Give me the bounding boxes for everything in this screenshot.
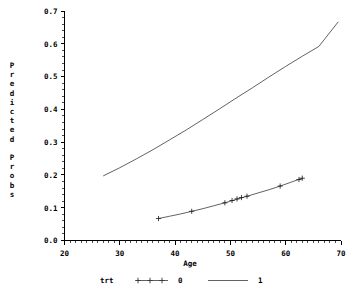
y-axis-title-char: P <box>10 153 15 162</box>
x-tick-label: 20 <box>60 249 70 258</box>
data-point-marker <box>296 177 301 182</box>
y-axis-title-char: P <box>10 61 15 70</box>
x-axis-ticks <box>65 241 342 246</box>
legend-symbol-plus-markers <box>135 278 168 284</box>
y-tick-label: 0.6 <box>44 40 58 49</box>
series-1 <box>103 22 338 176</box>
x-tick-label: 60 <box>281 249 291 258</box>
y-axis-title-char: e <box>10 125 15 134</box>
y-axis-title: PredictedProbs <box>10 61 15 199</box>
y-axis-title-char: i <box>10 98 15 107</box>
predicted-probability-chart: PredictedProbs 0.00.10.20.30.40.50.60.7 … <box>0 0 350 295</box>
legend-entry-label-0: 0 <box>178 276 183 285</box>
y-axis-title-char: e <box>10 79 15 88</box>
y-axis-title-char: r <box>10 162 15 171</box>
legend-title: trt <box>100 276 114 285</box>
data-point-marker <box>278 183 283 188</box>
y-axis-title-char: b <box>10 181 15 190</box>
data-point-marker <box>300 176 305 181</box>
y-tick-label: 0.7 <box>44 7 58 16</box>
y-axis-title-char: s <box>10 190 15 199</box>
data-point-marker <box>229 198 234 203</box>
x-axis-tick-labels: 203040506070 <box>60 249 346 258</box>
series-0 <box>156 176 305 222</box>
y-tick-label: 0.2 <box>44 171 58 180</box>
x-axis-title: Age <box>183 259 197 268</box>
y-tick-label: 0.5 <box>44 72 58 81</box>
y-axis-title-char: c <box>10 107 15 116</box>
y-tick-label: 0.3 <box>44 138 58 147</box>
y-tick-label: 0.1 <box>44 204 58 213</box>
data-point-marker <box>189 209 194 214</box>
x-tick-label: 50 <box>226 249 236 258</box>
data-point-marker <box>222 200 227 205</box>
x-tick-label: 70 <box>336 249 346 258</box>
y-axis-title-char: o <box>10 171 15 180</box>
y-axis-title-char: d <box>10 135 15 144</box>
data-point-marker <box>234 196 239 201</box>
y-axis-ticks <box>61 11 65 241</box>
chart-svg: PredictedProbs 0.00.10.20.30.40.50.60.7 … <box>0 0 350 295</box>
series-line-1 <box>103 22 338 176</box>
data-point-marker <box>244 194 249 199</box>
series-line-0 <box>159 178 303 218</box>
y-tick-label: 0.4 <box>44 105 58 114</box>
data-series-group <box>103 22 338 221</box>
legend-entry-label-1: 1 <box>258 276 263 285</box>
legend: trt 0 1 <box>100 276 263 285</box>
data-point-marker <box>156 216 161 221</box>
y-axis-title-char: t <box>10 116 15 125</box>
y-tick-label: 0.0 <box>44 236 58 245</box>
y-axis-tick-labels: 0.00.10.20.30.40.50.60.7 <box>44 7 58 246</box>
data-point-marker <box>239 195 244 200</box>
y-axis-title-char: r <box>10 70 15 79</box>
x-tick-label: 30 <box>115 249 125 258</box>
y-axis-title-char: d <box>10 89 15 98</box>
x-tick-label: 40 <box>171 249 181 258</box>
